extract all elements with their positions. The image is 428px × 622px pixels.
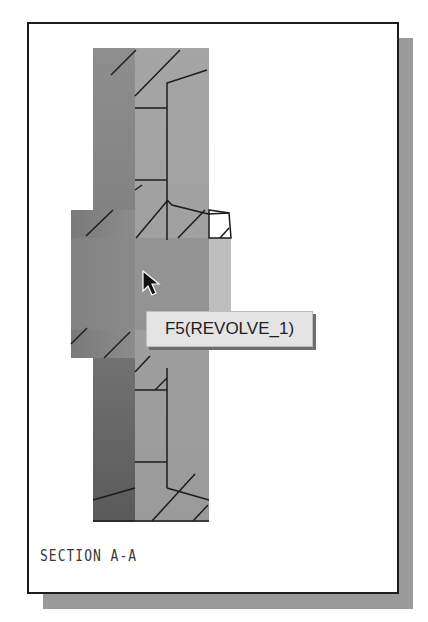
- section-view-label: SECTION A-A: [40, 547, 137, 564]
- mouse-pointer-icon: [142, 270, 164, 302]
- feature-tooltip: F5(REVOLVE_1): [146, 311, 313, 347]
